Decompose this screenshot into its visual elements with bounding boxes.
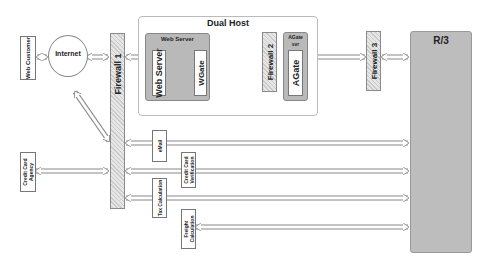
credit-card-agency-label: Credit Card Agency	[22, 155, 34, 189]
credit-card-agency-node: Credit Card Agency	[20, 152, 36, 192]
r3-system: R/3	[410, 31, 472, 253]
tax-calculation-node: Tax Calculation	[152, 178, 167, 218]
freight-calculation-label: Freight Calculation	[183, 210, 195, 248]
firewall-2: Firewall 2	[262, 32, 277, 92]
credit-card-verification-label: Credit Card Verification	[183, 153, 195, 187]
email-node: eMail	[152, 130, 167, 162]
internet-label: Internet	[49, 50, 87, 57]
agate-label: AGate	[291, 60, 301, 87]
wgate-label: WGate	[196, 60, 205, 85]
web-customer-label: Web Customer	[25, 37, 31, 79]
firewall-3: Firewall 3	[366, 31, 381, 91]
firewall-1: Firewall 1	[110, 33, 125, 209]
agate-svr-label: AGate svr	[284, 34, 307, 48]
firewall-3-label: Firewall 3	[369, 43, 378, 79]
internet-cloud: Internet	[48, 35, 88, 77]
web-customer-node: Web Customer	[20, 36, 36, 80]
dual-host-label: Dual Host	[139, 18, 317, 28]
freight-calculation-node: Freight Calculation	[181, 209, 196, 249]
email-label: eMail	[157, 140, 163, 153]
web-server-group-label: Web Server	[146, 36, 209, 42]
credit-card-verification-node: Credit Card Verification	[181, 152, 196, 188]
tax-calculation-label: Tax Calculation	[157, 179, 163, 217]
firewall-1-label: Firewall 1	[113, 53, 123, 94]
web-server-label: Web Server	[154, 48, 164, 97]
firewall-2-label: Firewall 2	[265, 44, 274, 80]
web-server-node: Web Server	[152, 50, 166, 96]
r3-label: R/3	[411, 35, 471, 46]
wgate-node: WGate	[194, 50, 207, 96]
agate-node: AGate	[288, 50, 303, 96]
